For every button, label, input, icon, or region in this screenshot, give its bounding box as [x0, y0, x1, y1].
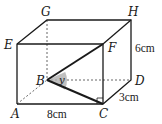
dimension-length: 8cm: [47, 108, 67, 120]
label-h: H: [127, 5, 139, 19]
label-d: D: [134, 74, 145, 88]
dimension-height: 6cm: [135, 42, 155, 54]
cuboid-diagram: E G H F B D A C y 6cm 3cm 8cm: [0, 0, 162, 124]
angle-label-y: y: [58, 74, 65, 85]
label-e: E: [3, 38, 13, 52]
label-c: C: [99, 107, 108, 121]
segment-bf: [47, 44, 103, 80]
label-a: A: [10, 107, 20, 121]
dimension-width: 3cm: [119, 91, 139, 103]
label-b: B: [35, 74, 45, 88]
segment-bc: [47, 80, 103, 104]
label-f: F: [107, 41, 117, 55]
label-g: G: [41, 5, 51, 19]
